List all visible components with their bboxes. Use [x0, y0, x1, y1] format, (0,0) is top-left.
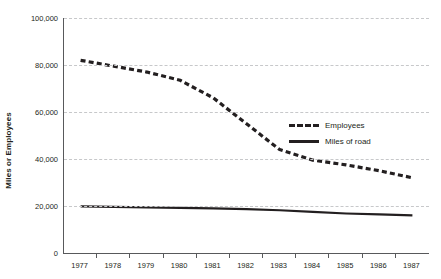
x-tick-label: 1983 — [270, 261, 287, 270]
line-chart: Miles or Employees 020,00040,00060,00080… — [0, 0, 441, 279]
x-tick-mark — [295, 253, 296, 258]
x-tick-label: 1978 — [104, 261, 121, 270]
x-tick-mark — [328, 253, 329, 258]
y-tick-label: 60,000 — [14, 108, 58, 117]
x-tick-mark — [196, 253, 197, 258]
y-tick-label: 20,000 — [14, 202, 58, 211]
gridline — [64, 206, 429, 207]
chart-legend: EmployeesMiles of road — [289, 118, 409, 150]
x-tick-label: 1981 — [204, 261, 221, 270]
x-tick-mark — [163, 253, 164, 258]
y-tick-label: 80,000 — [14, 61, 58, 70]
x-tick-label: 1985 — [337, 261, 354, 270]
legend-item-label: Miles of road — [325, 137, 371, 146]
x-tick-mark — [96, 253, 97, 258]
gridline — [64, 159, 429, 160]
legend-item-label: Employees — [325, 121, 365, 130]
y-tick-label: 100,000 — [14, 14, 58, 23]
legend-item[interactable]: Miles of road — [289, 134, 409, 148]
series-line — [81, 206, 413, 215]
x-tick-label: 1980 — [171, 261, 188, 270]
y-tick-label: 0 — [14, 249, 58, 258]
x-tick-label: 1987 — [403, 261, 420, 270]
legend-swatch-dashed-icon — [289, 120, 319, 130]
x-tick-mark — [129, 253, 130, 258]
x-tick-label: 1979 — [138, 261, 155, 270]
gridline — [64, 65, 429, 66]
x-tick-mark — [362, 253, 363, 258]
legend-item[interactable]: Employees — [289, 118, 409, 132]
gridline — [64, 18, 429, 19]
y-tick-label: 40,000 — [14, 155, 58, 164]
x-tick-mark — [229, 253, 230, 258]
x-tick-label: 1977 — [71, 261, 88, 270]
x-tick-label: 1984 — [304, 261, 321, 270]
legend-swatch-solid-icon — [289, 136, 319, 146]
y-axis-tick-labels: 020,00040,00060,00080,000100,000 — [10, 0, 58, 279]
x-tick-label: 1986 — [370, 261, 387, 270]
x-tick-mark — [395, 253, 396, 258]
x-tick-mark — [262, 253, 263, 258]
gridline — [64, 112, 429, 113]
x-tick-label: 1982 — [237, 261, 254, 270]
